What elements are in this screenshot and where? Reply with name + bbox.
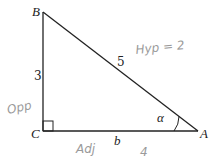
vertex-label-a: A <box>199 126 208 141</box>
handwritten-adj-value: 4 <box>140 145 148 159</box>
side-label-ba: 5 <box>117 55 125 69</box>
handwritten-adj: Adj <box>75 142 96 156</box>
angle-label-alpha: α <box>157 110 165 125</box>
handwritten-opp: Opp <box>6 98 33 117</box>
right-angle-marker <box>43 121 53 131</box>
angle-arc-alpha <box>174 117 179 132</box>
handwritten-hyp: Hyp = 2 <box>135 38 185 57</box>
vertex-label-b: B <box>32 4 40 19</box>
right-triangle-diagram: B C A 3 5 b α Hyp = 2 Opp Adj 4 <box>0 0 212 164</box>
side-ba-hypotenuse <box>43 12 198 131</box>
side-label-bc: 3 <box>34 69 42 83</box>
side-label-ca: b <box>114 133 121 148</box>
vertex-label-c: C <box>31 126 40 141</box>
